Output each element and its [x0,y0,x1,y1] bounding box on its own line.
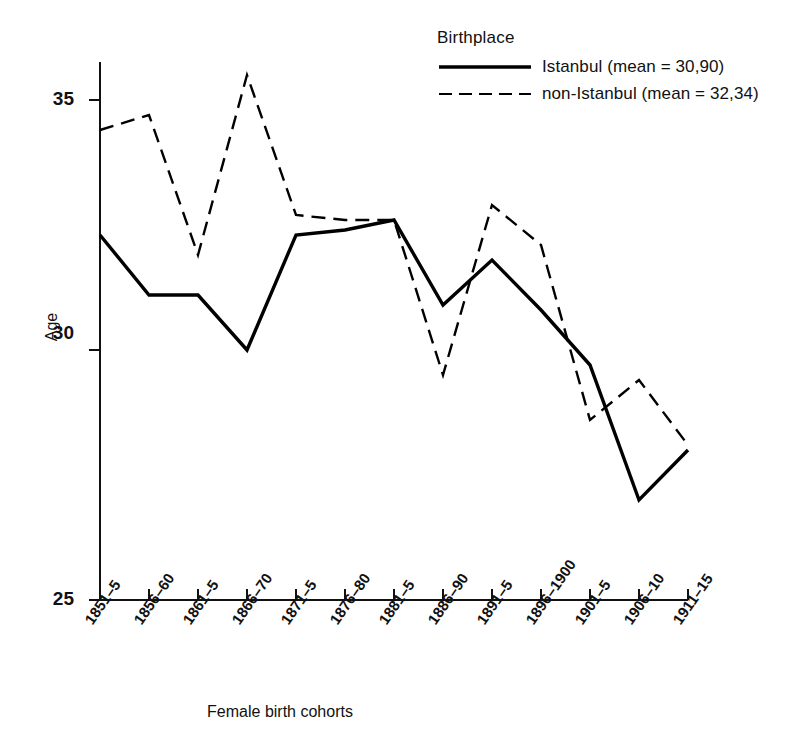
legend-swatch-dashed-line [437,87,533,101]
chart-legend: Birthplace Istanbul (mean = 30,90) non-I… [437,28,759,111]
legend-label-non-istanbul: non-Istanbul (mean = 32,34) [542,84,759,104]
legend-label-istanbul: Istanbul (mean = 30,90) [542,57,724,77]
legend-entry-non-istanbul: non-Istanbul (mean = 32,34) [437,84,759,104]
chart-axes [89,62,688,600]
y-tick-label-25: 25 [28,588,74,610]
y-axis-title: Age [43,267,61,387]
y-tick-marks [89,100,100,600]
legend-entry-istanbul: Istanbul (mean = 30,90) [437,57,759,77]
series-line-istanbul [100,220,688,500]
legend-swatch-solid-line [437,60,533,74]
y-tick-label-35: 35 [28,88,74,110]
x-axis-title: Female birth cohorts [0,703,560,721]
legend-title: Birthplace [437,28,759,48]
data-series-layer [100,75,688,500]
line-chart: 35 30 25 Age Female birth cohorts 1851–5… [0,0,794,736]
